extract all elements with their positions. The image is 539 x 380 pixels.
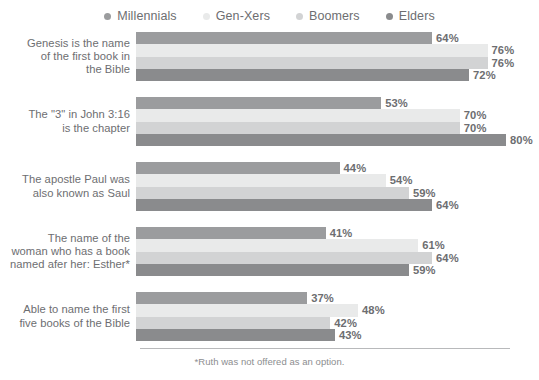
bar-value-label: 41% (330, 227, 353, 239)
legend-item-gen-xers: Gen-Xers (203, 9, 270, 23)
bar-boomers[interactable] (136, 187, 409, 199)
bar-group: Able to name the firstfive books of the … (0, 288, 539, 345)
bar-gen-xers[interactable] (136, 174, 386, 186)
bar-stack: 37%48%42%43% (136, 288, 539, 345)
bar-row: 64% (136, 32, 539, 44)
chart-footer: *Ruth was not offered as an option. (0, 348, 539, 380)
bar-value-label: 59% (413, 187, 436, 199)
bar-row: 42% (136, 317, 539, 329)
legend-item-boomers: Boomers (296, 9, 360, 23)
bar-boomers[interactable] (136, 122, 460, 134)
bar-value-label: 54% (390, 174, 413, 186)
bar-row: 41% (136, 227, 539, 239)
category-label: Genesis is the nameof the first book int… (0, 37, 136, 77)
bar-value-label: 59% (413, 264, 436, 276)
bar-row: 76% (136, 44, 539, 56)
bar-value-label: 64% (436, 32, 459, 44)
bar-stack: 53%70%70%80% (136, 93, 539, 150)
bar-row: 72% (136, 69, 539, 81)
bar-value-label: 48% (362, 304, 385, 316)
bar-row: 59% (136, 187, 539, 199)
bar-value-label: 70% (464, 109, 487, 121)
bar-group: The name of thewoman who has a booknamed… (0, 223, 539, 280)
bar-value-label: 42% (334, 317, 357, 329)
bar-elders[interactable] (136, 69, 469, 81)
bar-boomers[interactable] (136, 252, 432, 264)
bar-boomers[interactable] (136, 57, 488, 69)
chart-legend: Millennials Gen-Xers Boomers Elders (0, 0, 539, 28)
bar-value-label: 37% (311, 292, 334, 304)
bar-row: 37% (136, 292, 539, 304)
bar-value-label: 76% (492, 44, 515, 56)
bar-millennials[interactable] (136, 32, 432, 44)
bar-value-label: 64% (436, 252, 459, 264)
bar-stack: 64%76%76%72% (136, 28, 539, 85)
legend-item-elders: Elders (386, 9, 435, 23)
bar-row: 48% (136, 304, 539, 316)
bar-row: 54% (136, 174, 539, 186)
bar-row: 44% (136, 162, 539, 174)
bar-elders[interactable] (136, 329, 335, 341)
bar-value-label: 44% (344, 162, 367, 174)
bar-row: 61% (136, 239, 539, 251)
legend-label-millennials: Millennials (117, 9, 176, 23)
bar-gen-xers[interactable] (136, 44, 488, 56)
legend-swatch-elders (386, 13, 393, 20)
bar-value-label: 61% (422, 239, 445, 251)
bar-value-label: 53% (385, 97, 408, 109)
bar-row: 76% (136, 57, 539, 69)
bar-gen-xers[interactable] (136, 109, 460, 121)
bar-millennials[interactable] (136, 227, 326, 239)
category-label: The "3" in John 3:16is the chapter (0, 108, 136, 134)
bar-value-label: 80% (510, 134, 533, 146)
bar-elders[interactable] (136, 199, 432, 211)
bar-row: 70% (136, 122, 539, 134)
bar-millennials[interactable] (136, 97, 381, 109)
bar-gen-xers[interactable] (136, 304, 358, 316)
bar-row: 70% (136, 109, 539, 121)
bar-chart: Genesis is the nameof the first book int… (0, 28, 539, 348)
bar-value-label: 70% (464, 122, 487, 134)
footnote-text: *Ruth was not offered as an option. (0, 356, 539, 367)
bar-row: 59% (136, 264, 539, 276)
category-label: The name of thewoman who has a booknamed… (0, 232, 136, 272)
bar-row: 80% (136, 134, 539, 146)
bar-row: 53% (136, 97, 539, 109)
bar-millennials[interactable] (136, 162, 340, 174)
bar-group: The apostle Paul wasalso known as Saul44… (0, 158, 539, 215)
legend-item-millennials: Millennials (104, 9, 176, 23)
bar-value-label: 76% (492, 57, 515, 69)
bar-value-label: 64% (436, 199, 459, 211)
bar-row: 64% (136, 199, 539, 211)
legend-swatch-boomers (296, 13, 303, 20)
bar-value-label: 43% (339, 329, 362, 341)
legend-swatch-gen-xers (203, 13, 210, 20)
legend-label-elders: Elders (399, 9, 435, 23)
bar-elders[interactable] (136, 134, 506, 146)
category-label: The apostle Paul wasalso known as Saul (0, 173, 136, 199)
bar-value-label: 72% (473, 69, 496, 81)
bar-millennials[interactable] (136, 292, 307, 304)
bar-boomers[interactable] (136, 317, 330, 329)
bar-group: Genesis is the nameof the first book int… (0, 28, 539, 85)
bar-elders[interactable] (136, 264, 409, 276)
bar-row: 64% (136, 252, 539, 264)
legend-label-gen-xers: Gen-Xers (216, 9, 270, 23)
legend-swatch-millennials (104, 13, 111, 20)
bar-stack: 41%61%64%59% (136, 223, 539, 280)
bar-row: 43% (136, 329, 539, 341)
bar-group: The "3" in John 3:16is the chapter53%70%… (0, 93, 539, 150)
bar-stack: 44%54%59%64% (136, 158, 539, 215)
category-label: Able to name the firstfive books of the … (0, 303, 136, 329)
legend-label-boomers: Boomers (309, 9, 360, 23)
bar-gen-xers[interactable] (136, 239, 418, 251)
baseline-axis (140, 348, 510, 349)
